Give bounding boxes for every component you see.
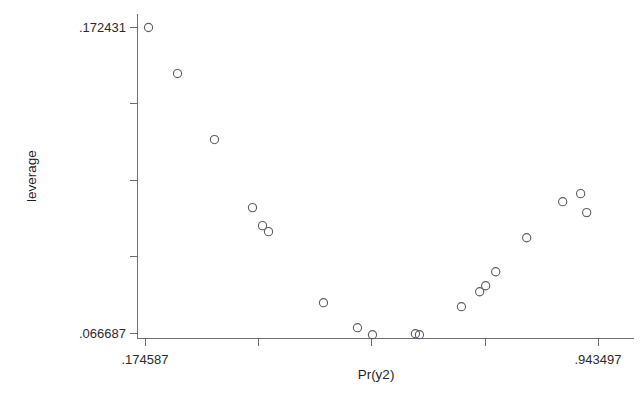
data-point <box>144 23 152 31</box>
y-axis <box>130 14 138 339</box>
data-point <box>492 268 500 276</box>
data-point-group <box>144 23 590 338</box>
plot-canvas: .172431 .066687 .174587 .943497 Pr(y2) l… <box>0 0 641 408</box>
data-point <box>559 198 567 206</box>
data-point <box>583 209 591 217</box>
data-point <box>173 69 181 77</box>
data-point <box>353 324 361 332</box>
scatter-plot-figure: .172431 .066687 .174587 .943497 Pr(y2) l… <box>0 0 641 408</box>
data-point <box>210 135 218 143</box>
data-point <box>457 303 465 311</box>
y-axis-tick-label-min: .066687 <box>79 326 126 341</box>
data-point <box>248 204 256 212</box>
x-axis <box>138 339 635 347</box>
y-axis-tick-label-max: .172431 <box>79 20 126 35</box>
data-point <box>368 331 376 339</box>
data-point <box>523 234 531 242</box>
y-axis-title: leverage <box>24 150 39 202</box>
x-axis-tick-label-max: .943497 <box>575 352 622 367</box>
data-point <box>264 228 272 236</box>
data-point <box>482 282 490 290</box>
data-point <box>577 190 585 198</box>
x-axis-tick-label-min: .174587 <box>122 352 169 367</box>
x-axis-title: Pr(y2) <box>358 367 395 382</box>
data-point <box>319 299 327 307</box>
